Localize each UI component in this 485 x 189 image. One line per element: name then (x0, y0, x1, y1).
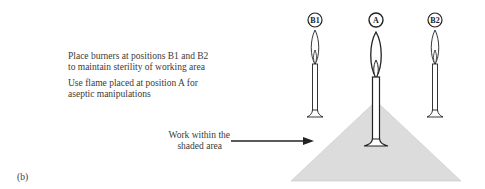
burner-b1: B1 (307, 13, 323, 117)
arrow-icon (231, 137, 314, 145)
burner-barrel (313, 64, 318, 113)
burner-base (307, 110, 323, 117)
burner-diagram: B1 A B2 (0, 0, 485, 189)
burner-base (427, 110, 443, 117)
burner-b2: B2 (427, 13, 443, 117)
svg-text:B2: B2 (430, 16, 439, 25)
burner-barrel (433, 64, 438, 113)
burner-barrel (373, 77, 380, 142)
svg-text:A: A (373, 16, 379, 25)
svg-text:B1: B1 (310, 16, 319, 25)
